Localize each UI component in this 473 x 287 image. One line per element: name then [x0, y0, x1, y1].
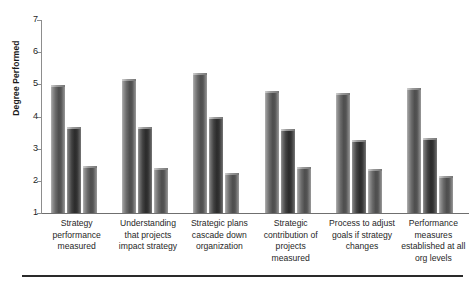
y-axis-title: Degree Performed [11, 18, 21, 138]
bar-group [51, 20, 97, 213]
category-label-line: measured [255, 253, 326, 265]
x-axis-category-label: Process to adjustgoals if strategychange… [326, 218, 397, 253]
bar [281, 129, 295, 213]
bar-group [407, 20, 453, 213]
bar-top-highlight [138, 127, 152, 129]
bar-top-highlight [67, 127, 81, 129]
category-label-line: Process to adjust [326, 218, 397, 230]
bar-group [336, 20, 382, 213]
bar [193, 73, 207, 213]
category-label-line: changes [326, 241, 397, 253]
bar-top-highlight [439, 176, 453, 178]
category-label-line: Strategic plans [184, 218, 255, 230]
bar-top-highlight [83, 166, 97, 168]
x-axis-category-label: Strategyperformancemeasured [41, 218, 112, 253]
bar [265, 91, 279, 213]
bar [122, 79, 136, 213]
category-label-line: cascade down [184, 230, 255, 242]
bar-group [193, 20, 239, 213]
category-label-line: goals if strategy [326, 230, 397, 242]
bar [297, 167, 311, 213]
y-axis-tick-label: 5 [33, 78, 38, 89]
y-axis-tick-label: 1 [33, 207, 38, 218]
bar-top-highlight [336, 93, 350, 95]
y-axis-tick-label: 4 [33, 111, 38, 122]
bar-top-highlight [193, 73, 207, 75]
bar-top-highlight [281, 129, 295, 131]
y-axis-tick-label: 2 [33, 175, 38, 186]
bar [83, 166, 97, 213]
bar-top-highlight [209, 117, 223, 119]
bar-top-highlight [352, 140, 366, 142]
x-axis-category-label: Performancemeasuresestablished at allorg… [398, 218, 469, 264]
bar-top-highlight [51, 85, 65, 87]
x-axis-category-label: Strategiccontribution ofprojectsmeasured [255, 218, 326, 264]
y-axis-tick-label: 7 [33, 14, 38, 25]
x-axis-category-labels: StrategyperformancemeasuredUnderstanding… [41, 218, 469, 270]
category-label-line: measures [398, 230, 469, 242]
category-label-line: contribution of [255, 230, 326, 242]
category-label-line: measured [41, 241, 112, 253]
bottom-divider [22, 275, 463, 277]
category-label-line: established at all [398, 241, 469, 253]
category-label-line: Strategy [41, 218, 112, 230]
bar-group [122, 20, 168, 213]
category-label-line: performance [41, 230, 112, 242]
category-label-line: Understanding [112, 218, 183, 230]
bar-top-highlight [423, 138, 437, 140]
bar-top-highlight [265, 91, 279, 93]
category-label-line: projects [255, 241, 326, 253]
bar [439, 176, 453, 213]
bar [368, 169, 382, 213]
y-axis-tick-label: 6 [33, 46, 38, 57]
category-label-line: organization [184, 241, 255, 253]
category-label-line: that projects [112, 230, 183, 242]
bar-top-highlight [297, 167, 311, 169]
bar-top-highlight [122, 79, 136, 81]
bar [138, 127, 152, 213]
x-axis-category-label: Understandingthat projectsimpact strateg… [112, 218, 183, 253]
bar [423, 138, 437, 213]
y-axis-tick-label: 3 [33, 143, 38, 154]
bar-top-highlight [368, 169, 382, 171]
x-axis-line [41, 213, 469, 214]
plot-area: 1234567 [41, 20, 469, 213]
bar [225, 173, 239, 213]
bar [352, 140, 366, 213]
bar [154, 168, 168, 213]
bar-top-highlight [407, 88, 421, 90]
bar-top-highlight [225, 173, 239, 175]
category-label-line: impact strategy [112, 241, 183, 253]
category-label-line: Strategic [255, 218, 326, 230]
bar [407, 88, 421, 213]
bar-group [265, 20, 311, 213]
bar [336, 93, 350, 213]
bar [209, 117, 223, 213]
category-label-line: org levels [398, 253, 469, 265]
bar-chart: Degree Performed 1234567 Strategyperform… [0, 0, 473, 287]
category-label-line: Performance [398, 218, 469, 230]
bar [51, 85, 65, 213]
bar [67, 127, 81, 213]
x-axis-category-label: Strategic planscascade downorganization [184, 218, 255, 253]
bar-top-highlight [154, 168, 168, 170]
